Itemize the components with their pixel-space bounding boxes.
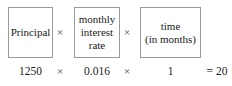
result-value: = 20	[202, 64, 232, 79]
multiplication-sign-1: ×	[53, 25, 67, 39]
box-time-line-1: time	[161, 20, 181, 33]
multiplication-sign-4: ×	[120, 64, 134, 79]
formula-box-monthly-interest-rate: monthly interest rate	[74, 7, 120, 58]
formula-box-time: time (in months)	[140, 7, 201, 58]
box-rate-line-2: interest	[81, 26, 113, 39]
box-rate-line-1: monthly	[79, 13, 116, 26]
formula-box-principal: Principal	[8, 7, 53, 58]
value-monthly-interest-rate: 0.016	[74, 64, 120, 79]
value-time: 1	[140, 64, 201, 79]
value-principal: 1250	[8, 64, 53, 79]
box-principal-line-1: Principal	[11, 26, 51, 39]
multiplication-sign-3: ×	[53, 64, 67, 79]
box-rate-line-3: rate	[89, 39, 105, 52]
box-time-line-2: (in months)	[145, 33, 196, 46]
formula-diagram: Principal × monthly interest rate × time…	[0, 0, 232, 86]
multiplication-sign-2: ×	[120, 25, 134, 39]
